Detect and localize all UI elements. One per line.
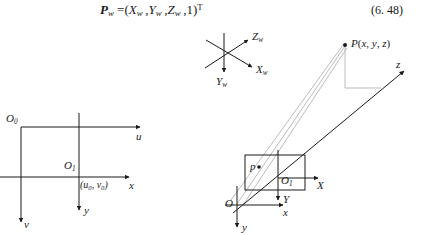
point-P-dot	[343, 43, 347, 47]
label-Xw-axis: Xw	[256, 64, 268, 77]
label-point-P: P(x, y, z)	[351, 38, 390, 49]
camera-z-axis-line	[233, 71, 404, 213]
label-left-y-axis: y	[84, 205, 89, 216]
label-Yw-axis: Yw	[216, 76, 227, 89]
right-camera-group	[205, 33, 404, 227]
label-camera-y-axis: y	[242, 222, 247, 233]
world-diagonal-stroke-zw	[205, 40, 248, 68]
label-image-X-axis: X	[317, 180, 324, 191]
label-image-Y-axis: Y	[283, 194, 289, 205]
label-O1-left: O1	[64, 160, 76, 173]
label-point-p: p	[250, 161, 256, 172]
point-p-dot	[257, 165, 261, 169]
label-O0: O0	[6, 113, 18, 126]
label-camera-z-axis: z	[396, 59, 400, 70]
label-camera-origin-O: O	[225, 198, 233, 209]
label-O1-right: O1	[281, 175, 293, 188]
label-v-axis: v	[24, 219, 29, 230]
label-u-axis: u	[136, 131, 142, 142]
figure-root: Pw =(Xw ,Yw ,Zw ,1)T (6. 48)	[0, 0, 447, 235]
label-principal-point: (u0, v0)	[80, 180, 108, 191]
label-left-x-axis: x	[129, 180, 134, 191]
label-Zw-axis: Zw	[252, 31, 263, 44]
diagram-canvas	[0, 0, 447, 235]
label-camera-x-axis: x	[283, 207, 288, 218]
